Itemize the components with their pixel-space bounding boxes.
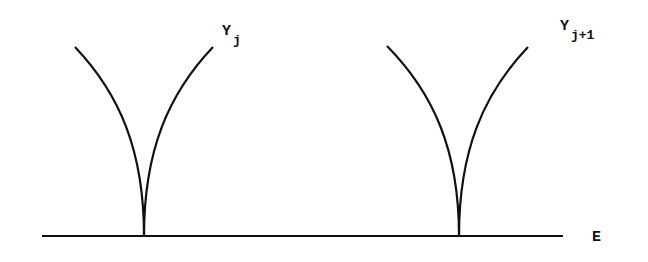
cusp-j-plus-1-right-branch [459, 47, 528, 236]
label-Y-j: Yj [222, 22, 241, 40]
label-E: E [592, 229, 601, 246]
label-Y-j-sub: j [233, 33, 241, 48]
cusp-j-plus-1-left-branch [387, 46, 459, 236]
diagram-canvas [0, 0, 648, 262]
label-Y-j-main: Y [222, 23, 231, 40]
cusp-j-right-branch [144, 47, 213, 236]
label-Y-j-plus-1-main: Y [560, 18, 569, 35]
cusp-j-left-branch [75, 47, 144, 236]
label-Y-j-plus-1: Yj+1 [560, 17, 594, 35]
label-Y-j-plus-1-sub: j+1 [571, 28, 594, 43]
